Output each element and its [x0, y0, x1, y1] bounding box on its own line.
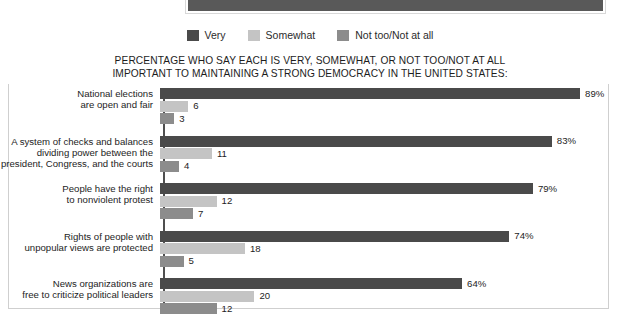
header-banner-frame	[185, 0, 606, 14]
bar-rect	[160, 148, 212, 159]
bar-value-label: 3	[179, 114, 184, 124]
bar-row[interactable]: 83%	[160, 136, 620, 147]
bar-value-label: 18	[250, 244, 261, 254]
bar-row[interactable]: 12	[160, 303, 620, 314]
category-label-line: News organizations are	[0, 278, 153, 289]
bar-row[interactable]: 11	[160, 148, 620, 159]
bar-rect	[160, 256, 184, 267]
legend-item[interactable]: Somewhat	[248, 30, 316, 41]
bar-rect	[160, 161, 179, 172]
category-label: People have the rightto nonviolent prote…	[0, 183, 158, 206]
category-label-line: free to criticize political leaders	[0, 289, 153, 300]
category-label-line: to nonviolent protest	[0, 194, 153, 205]
bar-set: 64%2012	[158, 278, 620, 316]
category-label-line: People have the right	[0, 183, 153, 194]
legend-item-label: Somewhat	[266, 30, 316, 41]
bar-row[interactable]: 18	[160, 243, 620, 254]
category-label: Rights of people withunpopular views are…	[0, 231, 158, 254]
bar-rect	[160, 231, 509, 242]
bar-value-label: 83%	[557, 136, 576, 146]
category-label-line: president, Congress, and the courts	[0, 158, 153, 169]
bar-row[interactable]: 79%	[160, 183, 620, 194]
chart-title: PERCENTAGE WHO SAY EACH IS VERY, SOMEWHA…	[0, 55, 620, 80]
bar-rect	[160, 183, 533, 194]
bar-rect	[160, 113, 174, 124]
bar-row[interactable]: 3	[160, 113, 620, 124]
chart-title-line-2: IMPORTANT TO MAINTAINING A STRONG DEMOCR…	[0, 68, 620, 81]
legend-item-label: Not too/Not at all	[355, 30, 433, 41]
bar-rect	[160, 243, 245, 254]
category-label: National electionsare open and fair	[0, 88, 158, 111]
bar-value-label: 5	[189, 256, 194, 266]
category-label: A system of checks and balancesdividing …	[0, 136, 158, 170]
header-banner-fill	[188, 0, 603, 11]
legend-item[interactable]: Not too/Not at all	[337, 30, 433, 41]
bar-set: 83%114	[158, 136, 620, 174]
legend-swatch-icon	[337, 30, 349, 41]
bar-set: 79%127	[158, 183, 620, 221]
bar-value-label: 4	[184, 161, 189, 171]
bar-row[interactable]: 6	[160, 101, 620, 112]
category-label-line: are open and fair	[0, 99, 153, 110]
bar-set: 89%63	[158, 88, 620, 126]
bar-rect	[160, 278, 462, 289]
bar-value-label: 74%	[514, 231, 533, 241]
bar-group: People have the rightto nonviolent prote…	[0, 183, 620, 221]
bar-value-label: 12	[222, 304, 233, 314]
category-label: News organizations arefree to criticize …	[0, 278, 158, 301]
bar-row[interactable]: 89%	[160, 88, 620, 99]
bar-value-label: 89%	[585, 89, 604, 99]
bar-value-label: 11	[217, 149, 227, 159]
bar-groups-container: National electionsare open and fair89%63…	[0, 88, 620, 319]
bar-rect	[160, 88, 580, 99]
category-label-line: National elections	[0, 88, 153, 99]
category-label-line: Rights of people with	[0, 231, 153, 242]
bar-value-label: 6	[193, 101, 198, 111]
bar-value-label: 20	[259, 291, 270, 301]
bar-value-label: 64%	[467, 279, 486, 289]
bar-rect	[160, 208, 193, 219]
bar-group: A system of checks and balancesdividing …	[0, 136, 620, 174]
bar-group: News organizations arefree to criticize …	[0, 278, 620, 316]
bar-row[interactable]: 64%	[160, 278, 620, 289]
bar-row[interactable]: 5	[160, 256, 620, 267]
chart-title-line-1: PERCENTAGE WHO SAY EACH IS VERY, SOMEWHA…	[0, 55, 620, 68]
bar-rect	[160, 303, 217, 314]
bar-group: Rights of people withunpopular views are…	[0, 231, 620, 269]
bar-rect	[160, 196, 217, 207]
legend-swatch-icon	[248, 30, 260, 41]
bar-value-label: 12	[222, 196, 233, 206]
bar-value-label: 79%	[538, 184, 557, 194]
category-label-line: dividing power between the	[0, 147, 153, 158]
bar-rect	[160, 291, 254, 302]
bar-row[interactable]: 74%	[160, 231, 620, 242]
bar-rect	[160, 136, 552, 147]
bar-set: 74%185	[158, 231, 620, 269]
bar-row[interactable]: 4	[160, 161, 620, 172]
bar-row[interactable]: 7	[160, 208, 620, 219]
legend-item-label: Very	[205, 30, 226, 41]
category-label-line: unpopular views are protected	[0, 242, 153, 253]
bar-row[interactable]: 12	[160, 196, 620, 207]
bar-rect	[160, 101, 188, 112]
category-label-line: A system of checks and balances	[0, 136, 153, 147]
legend-item[interactable]: Very	[187, 30, 226, 41]
bar-row[interactable]: 20	[160, 291, 620, 302]
bar-group: National electionsare open and fair89%63	[0, 88, 620, 126]
bar-value-label: 7	[198, 209, 203, 219]
chart-legend: VerySomewhatNot too/Not at all	[0, 30, 620, 41]
legend-swatch-icon	[187, 30, 199, 41]
